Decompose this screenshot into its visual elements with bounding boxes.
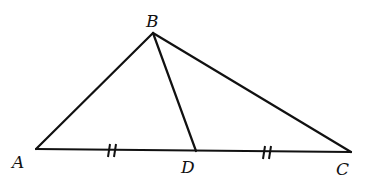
segment-bd-median [153,33,196,151]
segment-ab [36,33,153,149]
vertex-label-a: A [10,152,24,172]
vertex-label-b: B [145,11,159,31]
congruence-mark-dc [263,146,271,159]
vertex-label-c: C [336,159,349,179]
segment-ac [36,149,351,152]
segment-bc [153,33,351,152]
diagram-canvas: A B D C [0,0,374,186]
point-label-d: D [180,157,195,177]
triangle-diagram: A B D C [0,0,374,186]
